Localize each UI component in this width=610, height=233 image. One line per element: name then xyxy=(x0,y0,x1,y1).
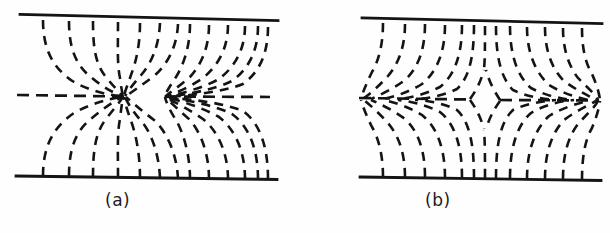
flux-line xyxy=(415,100,474,178)
flux-line xyxy=(165,25,209,97)
panel-b-caption: (b) xyxy=(425,190,451,210)
flux-line xyxy=(167,98,245,179)
flux-line xyxy=(166,98,228,179)
flux-line xyxy=(496,100,556,178)
flux-line xyxy=(69,97,122,176)
flux-line xyxy=(166,25,228,97)
panel-b-flux-lower-left xyxy=(361,100,485,178)
flux-line xyxy=(361,100,383,177)
flux-line xyxy=(510,100,574,178)
flux-line xyxy=(563,28,598,100)
panel-a-flux-lower-left xyxy=(43,97,178,179)
flux-line xyxy=(364,24,405,98)
panel-b-axis-left-segment xyxy=(359,98,470,100)
flux-line xyxy=(125,23,160,96)
flux-line xyxy=(398,100,462,178)
panel-a-mid-axis xyxy=(17,95,270,97)
diagram-canvas xyxy=(0,0,610,233)
panel-a-axis-left-segment xyxy=(17,95,124,97)
flux-line xyxy=(361,23,383,98)
flux-line xyxy=(563,101,598,179)
flux-line xyxy=(43,20,121,96)
flux-line xyxy=(124,97,140,178)
flux-line xyxy=(168,98,258,179)
flux-line xyxy=(527,27,589,100)
panel-b-central-node xyxy=(470,70,500,129)
figure-container: (a) (b) xyxy=(0,0,610,233)
flux-line xyxy=(496,26,556,100)
node-spoke-upper-left xyxy=(470,70,484,99)
panel-a xyxy=(16,15,278,180)
flux-line xyxy=(118,97,123,177)
flux-line xyxy=(364,100,405,177)
flux-line xyxy=(398,25,462,99)
node-spoke-lower-left xyxy=(470,100,484,129)
flux-line xyxy=(43,97,121,176)
node-spoke-lower-right xyxy=(486,101,500,129)
panel-a-top-plate xyxy=(20,15,278,21)
panel-a-flux-upper-left xyxy=(43,20,178,96)
panel-b xyxy=(359,18,602,181)
panel-b-flux-upper-right xyxy=(496,26,600,100)
flux-line xyxy=(125,97,160,178)
panel-a-flux-upper-right xyxy=(165,24,268,97)
flux-line xyxy=(527,101,589,179)
node-spoke-upper-right xyxy=(486,70,500,100)
flux-line xyxy=(118,22,123,96)
flux-line xyxy=(484,26,485,69)
panel-b-flux-lower-right xyxy=(496,100,600,180)
flux-line xyxy=(510,26,574,100)
flux-line xyxy=(484,130,485,178)
panel-a-flux-lower-right xyxy=(165,97,268,179)
panel-a-bottom-plate xyxy=(16,176,277,180)
panel-b-bottom-plate xyxy=(360,177,601,181)
panel-a-caption: (a) xyxy=(105,190,130,210)
flux-line xyxy=(383,100,445,178)
panel-b-top-plate xyxy=(362,18,602,24)
flux-line xyxy=(415,25,474,99)
flux-line xyxy=(582,101,600,180)
panel-b-flux-upper-left xyxy=(361,23,485,99)
flux-line xyxy=(168,26,258,97)
